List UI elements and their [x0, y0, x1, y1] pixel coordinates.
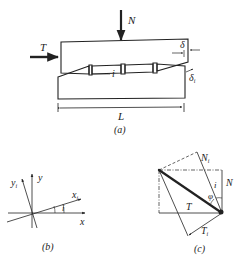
angle-i-label-c: i [214, 180, 217, 190]
rot-rect-top-dashed [159, 152, 197, 170]
figure-b-caption: (b) [42, 241, 54, 253]
lower-block [58, 64, 185, 99]
xi-label: xi [71, 189, 78, 201]
figure-b: i y x xi yi (b) [7, 172, 85, 253]
angle-i-label: i [112, 68, 115, 79]
diagram-canvas: i N T δ δi L (a) i y x [0, 0, 241, 261]
normal-i-label: Ni [200, 152, 210, 164]
shear-i-label: Ti [201, 225, 209, 237]
angle-phi-label: φ [208, 191, 213, 201]
y-label: y [37, 172, 43, 183]
normal-force-label: N [127, 14, 136, 26]
x-label: x [79, 216, 85, 227]
shear-label: T [186, 201, 193, 212]
delta-i-label: δi [189, 72, 196, 84]
delta-label: δ [180, 39, 185, 50]
figure-c: Ni N i φ T Ti (c) [158, 152, 234, 255]
normal-label: N [225, 177, 234, 188]
yi-label: yi [10, 177, 17, 189]
xi-axis [7, 199, 81, 222]
shear-force-label: T [40, 41, 47, 53]
length-dimension-line [60, 107, 182, 108]
yi-axis [22, 179, 37, 228]
resultant-start-point [158, 169, 160, 171]
figure-c-caption: (c) [194, 243, 206, 255]
length-label: L [117, 110, 124, 122]
figure-a: i N T δ δi L (a) [30, 10, 200, 136]
figure-a-caption: (a) [114, 124, 126, 136]
force-origin-point [219, 210, 224, 215]
